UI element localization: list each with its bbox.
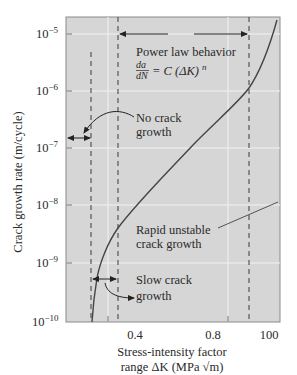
crack-growth-chart: 10−5 10−6 10−7 10−8 10−9 10−10 0.4 0.8 1… bbox=[0, 0, 297, 375]
svg-text:0.8: 0.8 bbox=[205, 328, 221, 342]
y-axis-title: Crack growth rate (m/cycle) bbox=[11, 111, 25, 252]
svg-text:n: n bbox=[202, 62, 207, 72]
svg-text:10−9: 10−9 bbox=[36, 254, 59, 270]
svg-text:100: 100 bbox=[260, 328, 279, 342]
rapid-label-line1: Rapid unstable bbox=[136, 223, 211, 237]
svg-text:dN: dN bbox=[136, 70, 149, 81]
rapid-label-line2: crack growth bbox=[136, 237, 202, 251]
no-crack-label-line1: No crack bbox=[136, 111, 182, 125]
svg-text:10−8: 10−8 bbox=[36, 196, 59, 212]
svg-text:da: da bbox=[136, 59, 146, 70]
svg-text:10−7: 10−7 bbox=[36, 139, 59, 155]
svg-text:10−6: 10−6 bbox=[36, 82, 59, 98]
power-law-label: Power law behavior bbox=[136, 45, 237, 59]
x-tick-labels: 0.4 0.8 100 bbox=[127, 328, 278, 342]
slow-label-line2: growth bbox=[136, 289, 172, 303]
svg-text:10−5: 10−5 bbox=[36, 25, 59, 41]
x-axis-title-line1: Stress-intensity factor bbox=[117, 345, 227, 359]
svg-text:10−10: 10−10 bbox=[32, 313, 59, 329]
svg-text:0.4: 0.4 bbox=[127, 328, 143, 342]
x-axis-title-line2: range ΔK (MPa √m) bbox=[121, 360, 224, 374]
svg-text:= C (ΔK): = C (ΔK) bbox=[152, 64, 199, 78]
y-tick-labels: 10−5 10−6 10−7 10−8 10−9 10−10 bbox=[32, 25, 59, 329]
no-crack-label-line2: growth bbox=[136, 125, 172, 139]
slow-label-line1: Slow crack bbox=[136, 273, 193, 287]
